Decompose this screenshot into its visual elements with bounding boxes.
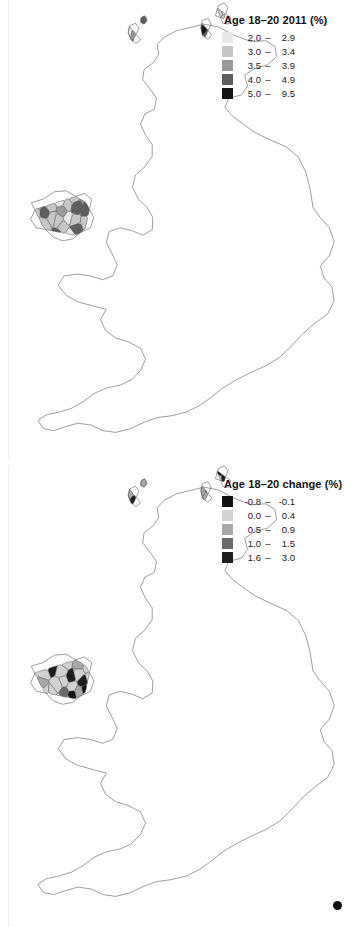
legend-range-label: 5.0–9.5 [241, 88, 295, 99]
legend-swatch [222, 88, 233, 99]
legend-range-high: 2.9 [275, 32, 295, 43]
legend-range-dash: – [261, 496, 275, 507]
figure-page: Age 18–20 2011 (%) 2.0–2.93.0–3.43.5–3.9… [0, 0, 364, 927]
legend-title: Age 18–20 2011 (%) [224, 14, 327, 26]
legend-swatch [222, 510, 233, 521]
legend-range-label: 2.0–2.9 [241, 32, 295, 43]
legend-range-label: 4.0–4.9 [241, 74, 295, 85]
legend-range-high: 3.0 [275, 552, 295, 563]
legend-swatch [222, 552, 233, 563]
cartogram-cell [72, 660, 83, 669]
legend-range-label: 1.6–3.0 [241, 552, 295, 563]
legend-swatch [222, 60, 233, 71]
legend-range-label: 0.0–0.4 [241, 510, 295, 521]
legend-swatch [222, 538, 233, 549]
legend-row: 1.0–1.5 [222, 538, 342, 549]
legend-range-low: 5.0 [241, 88, 261, 99]
legend-range-high: 3.9 [275, 60, 295, 71]
legend-range-dash: – [261, 32, 275, 43]
legend-range-low: 0.5 [241, 524, 261, 535]
legend-range-dash: – [261, 552, 275, 563]
legend-range-label: 3.0–3.4 [241, 46, 295, 57]
cartogram-cell [35, 208, 40, 218]
legend-range-low: 4.0 [241, 74, 261, 85]
legend-range-dash: – [261, 46, 275, 57]
legend-row: -0.8–-0.1 [222, 496, 342, 507]
legend-range-high: 3.4 [275, 46, 295, 57]
legend-range-low: 3.5 [241, 60, 261, 71]
legend-range-low: 2.0 [241, 32, 261, 43]
legend-row: 3.5–3.9 [222, 60, 327, 71]
legend-range-low: 0.0 [241, 510, 261, 521]
legend-range-low: -0.8 [241, 496, 261, 507]
legend-swatch [222, 46, 233, 57]
legend-range-label: 1.0–1.5 [241, 538, 295, 549]
cartogram-panel-age-change: Age 18–20 change (%) -0.8–-0.10.0–0.40.5… [0, 463, 364, 927]
legend-range-label: -0.8–-0.1 [241, 496, 295, 507]
legend-range-label: 0.5–0.9 [241, 524, 295, 535]
legend-age-change: Age 18–20 change (%) -0.8–-0.10.0–0.40.5… [222, 478, 342, 563]
legend-row: 2.0–2.9 [222, 32, 327, 43]
legend-title: Age 18–20 change (%) [224, 478, 342, 490]
legend-rows: -0.8–-0.10.0–0.40.5–0.91.0–1.51.6–3.0 [222, 496, 342, 563]
legend-range-label: 3.5–3.9 [241, 60, 295, 71]
legend-row: 1.6–3.0 [222, 552, 342, 563]
legend-swatch [222, 524, 233, 535]
legend-range-low: 1.6 [241, 552, 261, 563]
legend-range-high: 1.5 [275, 538, 295, 549]
corner-marker-dot [333, 901, 342, 910]
legend-row: 5.0–9.5 [222, 88, 327, 99]
legend-range-high: 4.9 [275, 74, 295, 85]
legend-row: 0.0–0.4 [222, 510, 342, 521]
legend-row: 3.0–3.4 [222, 46, 327, 57]
legend-range-high: 9.5 [275, 88, 295, 99]
legend-range-dash: – [261, 510, 275, 521]
legend-swatch [222, 32, 233, 43]
cartogram-panel-age-2011: Age 18–20 2011 (%) 2.0–2.93.0–3.43.5–3.9… [0, 0, 364, 463]
legend-row: 0.5–0.9 [222, 524, 342, 535]
legend-range-high: 0.9 [275, 524, 295, 535]
legend-range-low: 3.0 [241, 46, 261, 57]
legend-range-low: 1.0 [241, 538, 261, 549]
legend-range-dash: – [261, 538, 275, 549]
legend-row: 4.0–4.9 [222, 74, 327, 85]
legend-range-dash: – [261, 88, 275, 99]
legend-range-high: 0.4 [275, 510, 295, 521]
legend-range-dash: – [261, 524, 275, 535]
legend-range-dash: – [261, 60, 275, 71]
legend-range-dash: – [261, 74, 275, 85]
legend-rows: 2.0–2.93.0–3.43.5–3.94.0–4.95.0–9.5 [222, 32, 327, 99]
legend-swatch [222, 496, 233, 507]
legend-age-2011: Age 18–20 2011 (%) 2.0–2.93.0–3.43.5–3.9… [222, 14, 327, 99]
legend-range-high: -0.1 [275, 496, 295, 507]
legend-swatch [222, 74, 233, 85]
